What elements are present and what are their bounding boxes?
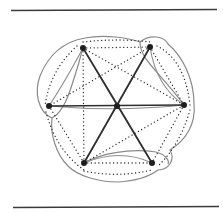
graph-diagram bbox=[0, 0, 223, 213]
graph-node bbox=[147, 44, 153, 50]
bottom-rule bbox=[13, 207, 219, 208]
graph-node bbox=[81, 160, 87, 166]
dotted-edge bbox=[152, 105, 184, 163]
dotted-curve bbox=[84, 170, 152, 174]
graph-node bbox=[149, 160, 155, 166]
dotted-curve bbox=[45, 46, 77, 106]
light-edge bbox=[84, 156, 152, 164]
dotted-curve bbox=[158, 110, 190, 166]
dotted-edge bbox=[83, 47, 150, 48]
dotted-edge bbox=[49, 106, 84, 163]
graph-node bbox=[80, 45, 86, 51]
graph-node bbox=[181, 102, 187, 108]
graph-node bbox=[46, 103, 52, 109]
top-rule bbox=[11, 10, 217, 11]
graph-node bbox=[114, 103, 120, 109]
